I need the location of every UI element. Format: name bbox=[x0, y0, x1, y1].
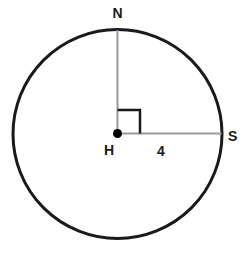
label-right-point-S: S bbox=[228, 128, 237, 144]
label-center-point-H: H bbox=[104, 142, 114, 158]
label-radius-measure: 4 bbox=[157, 143, 165, 159]
geometry-diagram: N S H 4 bbox=[0, 0, 248, 255]
label-top-point-N: N bbox=[112, 5, 122, 21]
circle-figure-svg: N S H 4 bbox=[0, 0, 248, 255]
right-angle-marker bbox=[118, 110, 141, 134]
center-point-dot bbox=[113, 129, 122, 138]
